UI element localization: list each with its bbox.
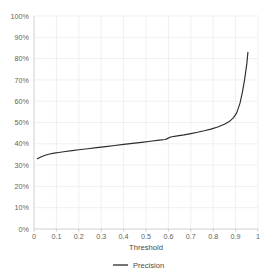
y-tick-label: 20% — [15, 182, 30, 191]
legend-label-precision: Precision — [133, 261, 164, 270]
chart-canvas: 0%10%20%30%40%50%60%70%80%90%100% 00.10.… — [0, 0, 271, 278]
y-axis-tick-labels: 0%10%20%30%40%50%60%70%80%90%100% — [11, 12, 30, 234]
y-tick-label: 80% — [15, 54, 30, 63]
x-tick-label: 0.6 — [163, 232, 173, 241]
y-tick-label: 50% — [15, 118, 30, 127]
y-tick-label: 0% — [19, 225, 30, 234]
x-tick-label: 0.3 — [96, 232, 106, 241]
y-tick-label: 10% — [15, 203, 30, 212]
x-tick-label: 0.2 — [74, 232, 84, 241]
y-tick-label: 70% — [15, 76, 30, 85]
x-tick-label: 1 — [256, 232, 260, 241]
x-tick-label: 0.7 — [186, 232, 196, 241]
x-tick-label: 0.4 — [119, 232, 129, 241]
chart-legend: Precision — [113, 261, 164, 270]
x-tick-label: 0.9 — [231, 232, 241, 241]
x-tick-label: 0.8 — [208, 232, 218, 241]
x-axis-title: Threshold — [129, 243, 163, 252]
y-tick-label: 40% — [15, 139, 30, 148]
x-tick-label: 0.1 — [51, 232, 61, 241]
precision-line-series — [37, 52, 248, 159]
x-tick-label: 0 — [32, 232, 36, 241]
y-tick-label: 90% — [15, 33, 30, 42]
y-tick-label: 100% — [11, 12, 30, 21]
precision-threshold-chart: 0%10%20%30%40%50%60%70%80%90%100% 00.10.… — [0, 0, 271, 278]
x-axis-tick-labels: 00.10.20.30.40.50.60.70.80.91 — [32, 232, 260, 241]
y-tick-label: 30% — [15, 161, 30, 170]
x-tick-label: 0.5 — [141, 232, 151, 241]
y-tick-label: 60% — [15, 97, 30, 106]
